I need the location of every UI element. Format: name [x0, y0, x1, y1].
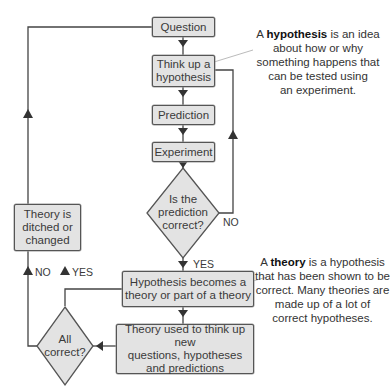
decision-prediction-line2: prediction	[148, 206, 218, 219]
theory-note: A theory is a hypothesis that has been s…	[253, 255, 392, 325]
think-hypothesis-line2: hypothesis	[156, 71, 211, 84]
theory-note-line4: made up of a lot of	[253, 297, 392, 311]
hypothesis-term: hypothesis	[267, 28, 328, 40]
theory-term: theory	[270, 256, 305, 268]
prediction-label: Prediction	[158, 109, 209, 122]
theory-note-line1: A theory is a hypothesis	[253, 255, 392, 269]
theory-ditched-line1: Theory is	[24, 208, 71, 221]
decision-prediction-line1: Is the	[148, 193, 218, 206]
hypothesis-note-line5: an experiment.	[248, 83, 388, 97]
prediction-yes-label: YES	[193, 258, 214, 270]
theory-ditched-line2: ditched or	[22, 221, 73, 234]
hypothesis-theory-box: Hypothesis becomes a theory or part of a…	[122, 271, 254, 307]
question-label: Question	[160, 21, 206, 34]
decision-prediction-text: Is the prediction correct?	[148, 193, 218, 232]
experiment-label: Experiment	[154, 146, 212, 159]
all-yes-label: YES	[72, 266, 93, 278]
theory-note-line2: that has been shown to be	[253, 269, 392, 283]
decision-all-line2: correct?	[37, 346, 93, 359]
question-box: Question	[152, 17, 215, 37]
decision-all-correct-text: All correct?	[37, 333, 93, 359]
theory-used-line3: and predictions	[146, 362, 224, 375]
hypothesis-note-line1: A hypothesis is an idea	[248, 27, 388, 41]
experiment-box: Experiment	[152, 142, 215, 162]
hypothesis-note-line4: can be tested using	[248, 69, 388, 83]
all-no-label: NO	[35, 266, 51, 278]
decision-prediction-line3: correct?	[148, 219, 218, 232]
prediction-no-label: NO	[223, 216, 239, 228]
theory-note-line5: correct hypotheses.	[253, 311, 392, 325]
decision-all-line1: All	[37, 333, 93, 346]
prediction-box: Prediction	[152, 105, 215, 125]
hypothesis-theory-line2: theory or part of a theory	[125, 289, 251, 302]
theory-ditched-line3: changed	[25, 234, 69, 247]
theory-used-line2: questions, hypotheses	[128, 349, 242, 362]
hypothesis-note: A hypothesis is an idea about how or why…	[248, 27, 388, 97]
hypothesis-note-line3: something happens that	[248, 55, 388, 69]
theory-used-box: Theory used to think up new questions, h…	[116, 324, 254, 374]
think-hypothesis-line1: Think up a	[157, 58, 211, 71]
theory-ditched-box: Theory is ditched or changed	[14, 204, 81, 251]
theory-note-line3: correct. Many theories are	[253, 283, 392, 297]
hypothesis-theory-line1: Hypothesis becomes a	[130, 276, 246, 289]
theory-used-line1: Theory used to think up new	[117, 323, 253, 349]
hypothesis-note-line2: about how or why	[248, 41, 388, 55]
think-hypothesis-box: Think up a hypothesis	[152, 55, 215, 87]
